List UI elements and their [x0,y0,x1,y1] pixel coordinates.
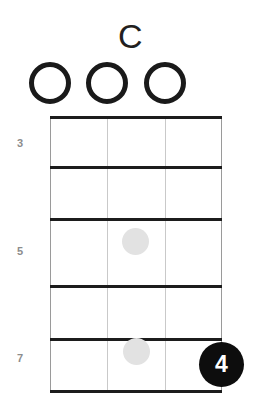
fret-line [50,218,222,221]
ghost-dot-fret-7 [123,338,150,365]
string-line [107,116,108,393]
fretboard-grid: 4 [50,116,222,393]
fret-line [50,285,222,288]
finger-number-label: 4 [215,353,228,376]
open-string-circle-icon [29,62,71,104]
chord-name-title: C [0,16,261,56]
string-line [50,116,51,393]
fret-line [50,116,222,119]
string-line [165,116,166,393]
fret-position-label: 5 [0,245,40,258]
open-string-circle-icon [86,62,128,104]
fret-position-label: 7 [0,352,40,365]
ghost-dot-fret-5 [122,228,149,255]
fret-line [50,166,222,169]
open-string-circle-icon [144,62,186,104]
finger-marker-4: 4 [199,342,244,387]
fret-line [50,390,222,393]
fret-position-label: 3 [0,137,40,150]
chord-diagram: C 357 4 [0,0,261,411]
